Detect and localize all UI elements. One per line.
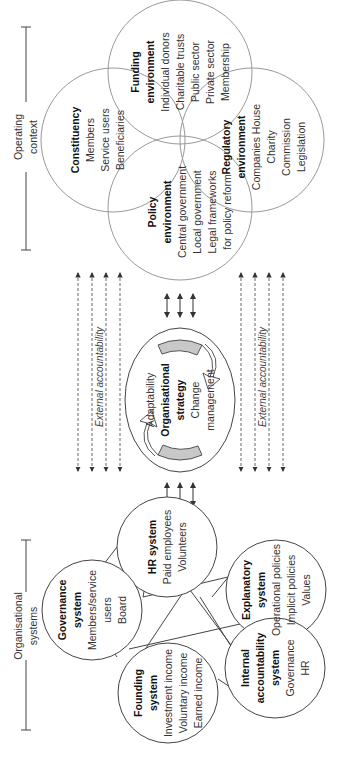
external-accountability-label-right: External accountability xyxy=(255,327,270,427)
governance-system-label: Governance system Members/service users … xyxy=(55,570,130,650)
hr-system-label: HR system Paid employees Volunteers xyxy=(145,510,190,585)
constituency-label: Constituency Members Service users Benef… xyxy=(68,107,128,174)
organisational-systems-label: Organisational systems xyxy=(11,592,41,660)
adaptability-label: Adaptability xyxy=(143,363,158,437)
operating-context-label: Operating context xyxy=(11,114,41,160)
founding-system-label: Founding system Investment income Volunt… xyxy=(131,649,206,737)
explanatory-system-label: Explanatory system Operational policies … xyxy=(239,544,314,636)
policy-environment-label: Policy environment Central government Lo… xyxy=(145,166,235,258)
internal-accountability-label: Internal accountability system Governanc… xyxy=(238,633,313,704)
external-accountability-label-left: External accountability xyxy=(92,327,107,427)
funding-environment-label: Funding environment Individual donors Ch… xyxy=(128,32,233,111)
strategy-label: Adaptability Organisational strategy Cha… xyxy=(143,363,218,437)
diagram-canvas: Operating context Funding environment In… xyxy=(0,0,344,757)
